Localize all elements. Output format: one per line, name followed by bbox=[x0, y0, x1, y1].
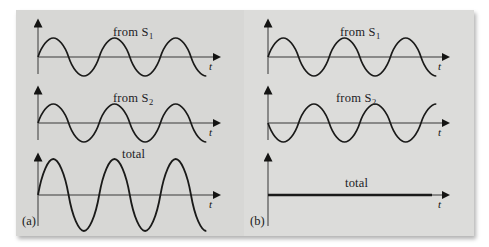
plot-a-total bbox=[38, 159, 214, 231]
plot-title-a-s2: from S2 bbox=[113, 92, 153, 105]
plot-title-b-s1: from S1 bbox=[340, 26, 380, 39]
waveform-canvas bbox=[0, 0, 489, 247]
axis-label-t-a-s2: t bbox=[209, 127, 212, 138]
plot-title-b-total: total bbox=[345, 177, 368, 190]
axis-label-t-a-total: t bbox=[209, 199, 212, 210]
panel-label-a: (a) bbox=[22, 215, 36, 228]
axis-label-t-b-s2: t bbox=[438, 127, 441, 138]
plot-title-a-s1: from S1 bbox=[113, 26, 153, 39]
plot-b-total bbox=[268, 160, 443, 226]
axis-label-t-a-s1: t bbox=[209, 61, 212, 72]
axis-label-t-b-total: t bbox=[438, 199, 441, 210]
axis-label-t-b-s1: t bbox=[438, 61, 441, 72]
panel-label-b: (b) bbox=[250, 215, 265, 228]
plot-title-b-s2: from S2 bbox=[336, 92, 376, 105]
plot-title-a-total: total bbox=[122, 148, 145, 161]
wave-interference-figure: from S1 t from S2 t total t (a) from S1 … bbox=[0, 0, 489, 247]
